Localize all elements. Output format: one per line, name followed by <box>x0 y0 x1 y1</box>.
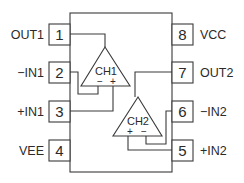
opamp-ch2-noninv-sign: + <box>127 126 133 137</box>
ic-body <box>70 13 172 172</box>
wire-inp1 <box>70 86 113 111</box>
pin-4-number: 4 <box>55 142 63 159</box>
wire-out1 <box>70 34 105 47</box>
wire-inp2 <box>128 136 172 150</box>
pin-7-label: OUT2 <box>200 66 233 80</box>
opamp-ch2: CH2 + − <box>113 97 162 137</box>
opamp-ch1: CH1 − + <box>81 47 130 87</box>
opamp-ch1-noninv-sign: + <box>110 76 116 87</box>
wire-out2 <box>135 72 172 97</box>
pin-7: 7 OUT2 <box>172 62 233 83</box>
pin-5-number: 5 <box>178 142 186 159</box>
pin-8-label: VCC <box>200 28 226 42</box>
pin-8: 8 VCC <box>172 24 226 45</box>
pin-3: 3 +IN1 <box>17 101 70 122</box>
wire-inn1 <box>70 72 98 94</box>
pin-4-label: VEE <box>19 144 44 158</box>
pin-6-number: 6 <box>178 103 186 120</box>
pin-5: 5 +IN2 <box>172 140 227 161</box>
pin-2-label: −IN1 <box>17 66 44 80</box>
opamp-ch2-inv-sign: − <box>141 126 147 137</box>
pin-4: 4 VEE <box>19 140 70 161</box>
pin-1-number: 1 <box>55 26 63 43</box>
pin-8-number: 8 <box>178 26 186 43</box>
pin-6: 6 −IN2 <box>172 101 227 122</box>
pin-5-label: +IN2 <box>200 144 227 158</box>
pin-6-label: −IN2 <box>200 105 227 119</box>
pin-1-label: OUT1 <box>11 28 44 42</box>
pin-2-number: 2 <box>55 64 63 81</box>
pin-1: 1 OUT1 <box>11 24 70 45</box>
pin-2: 2 −IN1 <box>17 62 70 83</box>
pin-7-number: 7 <box>178 64 186 81</box>
pin-3-number: 3 <box>55 103 63 120</box>
pinout-diagram: 1 OUT1 2 −IN1 3 +IN1 4 VEE 8 VCC 7 OUT2 … <box>0 0 244 183</box>
wiring <box>70 34 172 150</box>
opamp-ch1-inv-sign: − <box>97 76 103 87</box>
pin-3-label: +IN1 <box>17 105 44 119</box>
